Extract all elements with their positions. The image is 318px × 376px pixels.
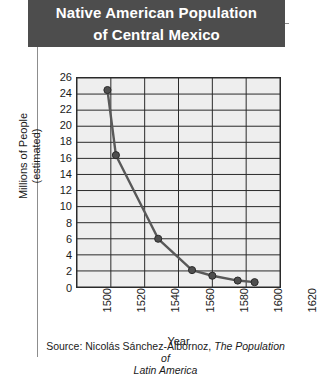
y-axis-title: Millions of People (estimated) [17, 86, 43, 226]
plot-area [76, 77, 281, 288]
y-tick-label: 16 [50, 153, 72, 164]
source-note: Source: Nicolás Sánchez-Albornoz, The Po… [44, 340, 287, 376]
y-tick-label: 14 [50, 169, 72, 180]
x-tick-label: 1540 [170, 288, 181, 328]
chart-title-banner: Native American Population of Central Me… [28, 0, 285, 47]
y-tick-label: 24 [50, 88, 72, 99]
y-tick-label: 18 [50, 136, 72, 147]
x-tick-label: 1600 [273, 288, 284, 328]
chart-title-line-1: Native American Population [28, 2, 285, 24]
y-axis-tick-labels: 02468101214161820222426 [48, 77, 72, 288]
y-axis-title-line-1: Millions of People [17, 86, 30, 226]
y-tick-label: 12 [50, 185, 72, 196]
source-work-line-2: Latin America [134, 364, 198, 376]
x-tick-label: 1620 [307, 288, 318, 328]
y-tick-label: 6 [50, 234, 72, 245]
source-prefix: Source: Nicolás Sánchez-Albornoz, [46, 340, 214, 352]
chart-title-line-2: of Central Mexico [28, 24, 285, 46]
plot-svg [77, 78, 280, 287]
y-tick-label: 0 [50, 283, 72, 294]
y-tick-label: 20 [50, 120, 72, 131]
y-tick-label: 8 [50, 218, 72, 229]
y-tick-label: 26 [50, 72, 72, 83]
x-tick-label: 1520 [136, 288, 147, 328]
y-tick-label: 22 [50, 104, 72, 115]
x-tick-label: 1500 [102, 288, 113, 328]
x-tick-label: 1560 [205, 288, 216, 328]
y-tick-label: 10 [50, 201, 72, 212]
chart-region: Millions of People (estimated) 024681012… [0, 47, 291, 311]
y-tick-label: 2 [50, 266, 72, 277]
x-axis-tick-labels: 1500152015401560158016001620 [76, 288, 281, 332]
y-axis-title-line-2: (estimated) [30, 86, 43, 226]
y-tick-label: 4 [50, 250, 72, 261]
x-tick-label: 1580 [239, 288, 250, 328]
